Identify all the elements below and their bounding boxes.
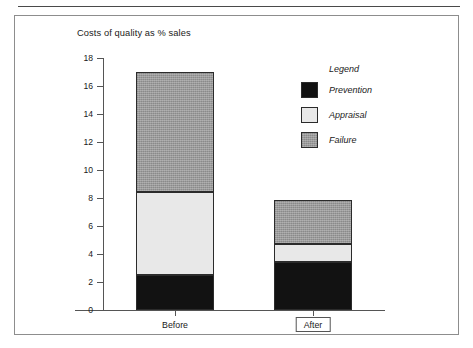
y-axis-tick-label: 10 — [33, 165, 93, 175]
bar-segment-before-failure[interactable] — [136, 72, 214, 192]
legend-entry-prevention[interactable]: Prevention — [301, 81, 441, 98]
y-axis-tick-label: 12 — [33, 137, 93, 147]
x-axis-label-after[interactable]: After — [296, 317, 331, 332]
legend-entry-label: Failure — [329, 135, 357, 145]
y-axis-tick — [97, 310, 103, 311]
y-axis-tick — [97, 58, 103, 59]
y-axis-tick-label: 18 — [33, 53, 93, 63]
bar-column-before[interactable] — [136, 58, 214, 310]
bar-segment-after-prevention[interactable] — [274, 262, 352, 310]
y-axis-tick-label: 16 — [33, 81, 93, 91]
y-axis-tick — [97, 170, 103, 171]
y-axis-tick — [97, 254, 103, 255]
y-axis-tick-label: 0 — [33, 305, 93, 315]
y-axis-tick — [97, 86, 103, 87]
bar-segment-after-failure[interactable] — [274, 200, 352, 244]
y-axis-tick — [97, 226, 103, 227]
y-axis-tick — [97, 198, 103, 199]
y-axis-tick-label: 2 — [33, 277, 93, 287]
legend-entry-appraisal[interactable]: Appraisal — [301, 106, 441, 123]
chart-frame: Costs of quality as % sales 024681012141… — [14, 15, 459, 335]
legend-entry-label: Appraisal — [329, 110, 367, 120]
y-axis-tick — [97, 142, 103, 143]
x-axis-tick — [313, 310, 314, 316]
y-axis-tick — [97, 114, 103, 115]
page-top-rule — [18, 6, 460, 7]
y-axis-tick-label: 8 — [33, 193, 93, 203]
y-axis-line — [103, 58, 104, 310]
x-axis-tick — [175, 310, 176, 316]
legend-title: Legend — [329, 64, 441, 74]
legend-entry-list: PreventionAppraisalFailure — [301, 81, 441, 148]
legend-entry-label: Prevention — [329, 85, 372, 95]
chart-legend: Legend PreventionAppraisalFailure — [301, 64, 441, 156]
legend-swatch-appraisal — [301, 107, 318, 123]
x-axis-line — [75, 310, 385, 311]
legend-swatch-prevention — [301, 82, 318, 98]
legend-swatch-failure — [301, 132, 318, 148]
bar-segment-before-appraisal[interactable] — [136, 192, 214, 275]
figure-page: Costs of quality as % sales 024681012141… — [0, 0, 473, 348]
y-axis-tick-label: 4 — [33, 249, 93, 259]
bar-segment-before-prevention[interactable] — [136, 275, 214, 310]
y-axis-tick-label: 14 — [33, 109, 93, 119]
y-axis-tick — [97, 282, 103, 283]
legend-entry-failure[interactable]: Failure — [301, 131, 441, 148]
x-axis-label-before[interactable]: Before — [162, 320, 188, 330]
y-axis-tick-label: 6 — [33, 221, 93, 231]
bar-segment-after-appraisal[interactable] — [274, 244, 352, 262]
